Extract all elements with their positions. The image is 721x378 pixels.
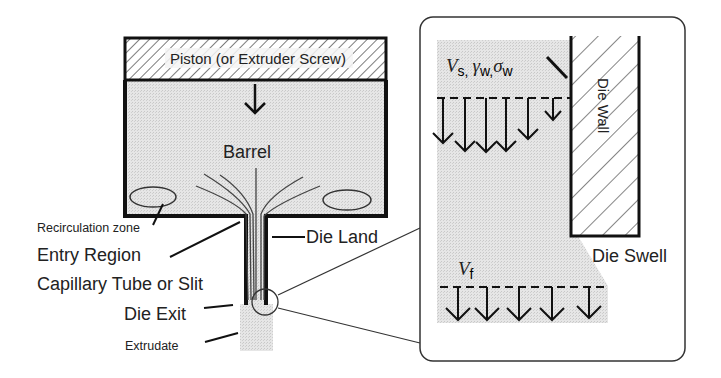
extrudate-label: Extrudate: [125, 339, 179, 353]
capillary-label: Capillary Tube or Slit: [37, 274, 203, 294]
recirculation-zone-label: Recirculation zone: [37, 221, 140, 235]
piston-label: Piston (or Extruder Screw): [170, 50, 346, 67]
extrusion-diagram: Piston (or Extruder Screw) Barrel: [0, 0, 721, 378]
die-swell-inset: Die Wall Vs,γw,σw Die Swell Vf: [420, 17, 685, 361]
die-wall: [570, 36, 639, 236]
die-land-label: Die Land: [306, 227, 378, 247]
die-wall-label: Die Wall: [595, 78, 612, 133]
die-exit-label: Die Exit: [124, 304, 186, 324]
extruder-schematic: Piston (or Extruder Screw) Barrel: [37, 38, 420, 353]
barrel-label: Barrel: [223, 142, 271, 162]
die-swell-label: Die Swell: [592, 246, 667, 266]
entry-region-label: Entry Region: [37, 245, 141, 265]
